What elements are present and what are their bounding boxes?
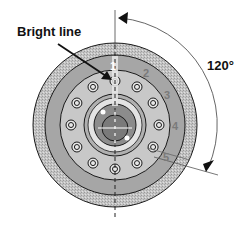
position-label-2: 2 [143, 67, 149, 79]
position-label-3: 3 [164, 89, 170, 101]
hub-dot [125, 136, 130, 141]
annotation-label: Bright line [17, 24, 81, 39]
position-label-4: 4 [172, 120, 179, 132]
arrowhead-top [118, 12, 128, 24]
bearing-diagram: Bright line 120° 1 2 3 4 5 [0, 0, 252, 225]
angle-label: 120° [207, 58, 234, 73]
position-label-1: 1 [110, 60, 116, 72]
position-label-5: 5 [163, 151, 169, 163]
hub-dot [101, 110, 106, 115]
arrowhead-bottom [203, 160, 214, 172]
